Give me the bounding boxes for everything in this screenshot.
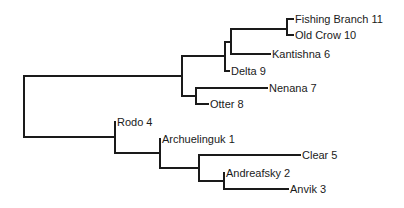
- leaf-label-andreafsky: Andreafsky 2: [226, 167, 290, 179]
- leaf-label-archuelinguk: Archuelinguk 1: [162, 133, 235, 145]
- leaf-labels: Fishing Branch 11Old Crow 10Kantishna 6D…: [117, 13, 383, 195]
- leaf-label-old-crow: Old Crow 10: [295, 29, 356, 41]
- leaf-label-otter: Otter 8: [210, 98, 244, 110]
- leaf-label-kantishna: Kantishna 6: [272, 48, 330, 60]
- leaf-label-nenana: Nenana 7: [269, 82, 317, 94]
- dendrogram: Fishing Branch 11Old Crow 10Kantishna 6D…: [0, 0, 404, 208]
- leaf-label-fishing-branch: Fishing Branch 11: [295, 13, 383, 25]
- leaf-label-rodo: Rodo 4: [117, 116, 152, 128]
- leaf-label-delta: Delta 9: [231, 65, 266, 77]
- branch-lines: [24, 19, 300, 189]
- leaf-label-clear: Clear 5: [302, 149, 337, 161]
- leaf-label-anvik: Anvik 3: [290, 183, 326, 195]
